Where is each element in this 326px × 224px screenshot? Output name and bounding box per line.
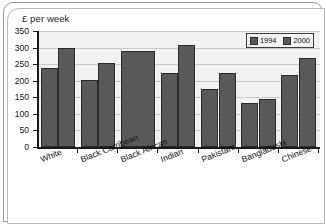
y-tick-label: 200 [15,76,29,86]
y-tick-label: 0 [24,142,29,152]
bar [299,58,316,147]
x-tick-mark [318,149,319,153]
legend-item-2000: 2000 [283,36,309,45]
legend-label: 2000 [293,36,309,45]
gridline [39,31,320,32]
y-axis: 050100150200250300350 [0,31,37,147]
plot-area [37,31,320,149]
legend-swatch-icon [283,37,291,45]
bar [41,68,58,147]
y-tick-label: 250 [15,59,29,69]
bar [219,73,236,147]
legend-item-1994: 1994 [250,36,276,45]
bar [81,80,98,147]
chart-legend: 1994 2000 [246,33,314,48]
y-tick-label: 150 [15,92,29,102]
x-tick-mark [238,149,239,153]
bar [201,89,218,147]
y-tick-label: 100 [15,109,29,119]
y-tick-label: 350 [15,26,29,36]
bar [121,51,156,147]
bar [281,75,298,147]
x-tick-label: White [39,147,63,165]
x-tick-mark [77,149,78,153]
legend-swatch-icon [250,37,258,45]
x-tick-mark [198,149,199,153]
bar [178,45,195,147]
bar [259,99,276,147]
legend-label: 1994 [260,36,276,45]
bar-chart: £ per week 050100150200250300350 WhiteBl… [0,0,326,224]
bar [58,48,75,147]
y-tick-label: 50 [19,125,29,135]
chart-title: £ per week [22,13,69,24]
y-tick-label: 300 [15,43,29,53]
bar [241,103,258,147]
bar [98,63,115,148]
